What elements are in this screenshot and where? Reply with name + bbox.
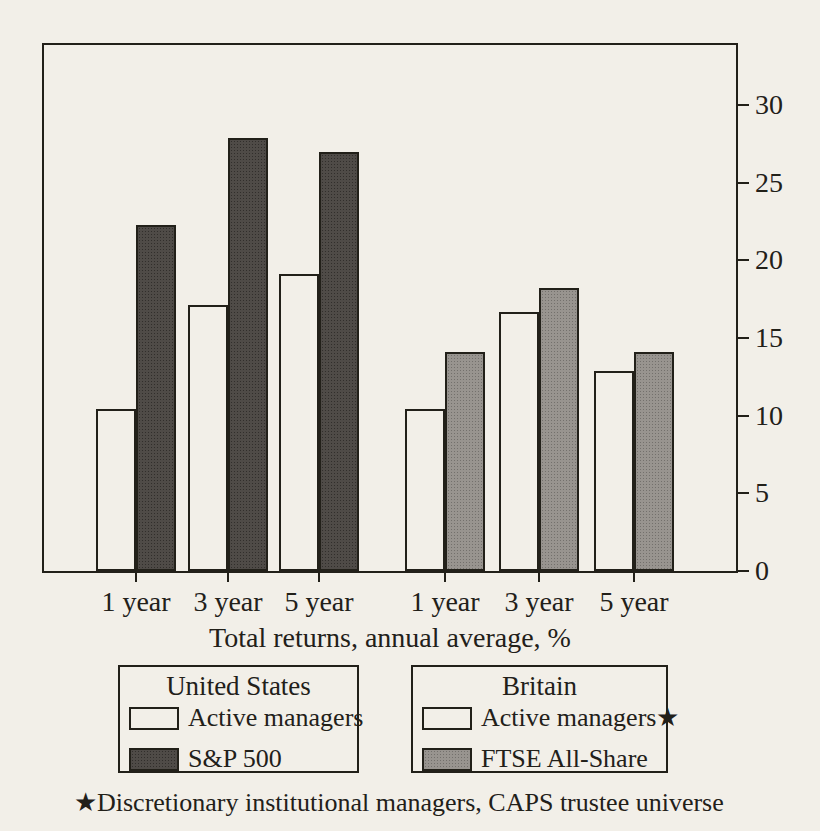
y-tick-5 — [736, 492, 749, 494]
bar-uk-active-managers-1-year — [405, 409, 445, 571]
dark-bar-swatch — [129, 748, 179, 771]
bar-uk-index-5-year — [634, 352, 674, 571]
bar-us-active-managers-5-year — [279, 274, 319, 571]
x-tick-uk-5-year — [633, 573, 635, 582]
legend-item-sp500: S&P 500 — [129, 745, 282, 773]
legend-label-uk-active-managers: Active managers★ — [481, 704, 679, 732]
scanned-chart-page: 0510152025301 year3 year5 year1 year3 ye… — [0, 0, 820, 831]
legend-title-britain: Britain — [413, 671, 666, 701]
bar-us-index-5-year — [319, 152, 359, 571]
white-bar-swatch — [129, 707, 179, 730]
x-label-us-5-year: 5 year — [284, 586, 353, 618]
y-tick-label-25: 25 — [755, 168, 783, 198]
x-label-uk-5-year: 5 year — [599, 586, 668, 618]
bar-us-index-1-year — [136, 225, 176, 571]
y-tick-label-0: 0 — [755, 556, 769, 586]
legend-label-sp500: S&P 500 — [188, 745, 282, 773]
y-tick-label-5: 5 — [755, 478, 769, 508]
y-tick-label-30: 30 — [755, 90, 783, 120]
x-label-uk-3-year: 3 year — [504, 586, 573, 618]
legend-label-us-active-managers: Active managers — [188, 704, 363, 732]
white-bar-swatch — [422, 707, 472, 730]
legend-label-ftse-all-share: FTSE All-Share — [481, 745, 648, 773]
y-tick-25 — [736, 182, 749, 184]
x-label-us-1-year: 1 year — [101, 586, 170, 618]
y-tick-10 — [736, 415, 749, 417]
legend-item-uk-active-managers: Active managers★ — [422, 704, 679, 732]
bar-uk-index-1-year — [445, 352, 485, 571]
y-tick-30 — [736, 104, 749, 106]
legend-title-united-states: United States — [120, 671, 357, 701]
y-tick-label-15: 15 — [755, 323, 783, 353]
x-label-us-3-year: 3 year — [193, 586, 262, 618]
legend-united-states: United States Active managers S&P 500 — [118, 665, 359, 773]
x-tick-us-1-year — [135, 573, 137, 582]
x-tick-us-5-year — [318, 573, 320, 582]
legend-item-us-active-managers: Active managers — [129, 704, 363, 732]
gray-bar-swatch — [422, 748, 472, 771]
bar-uk-index-3-year — [539, 288, 579, 571]
y-tick-15 — [736, 337, 749, 339]
x-tick-uk-3-year — [538, 573, 540, 582]
bar-us-active-managers-1-year — [96, 409, 136, 571]
legend-britain: Britain Active managers★ FTSE All-Share — [411, 665, 668, 773]
x-tick-us-3-year — [227, 573, 229, 582]
plot-area: 0510152025301 year3 year5 year1 year3 ye… — [42, 43, 738, 573]
y-tick-label-10: 10 — [755, 401, 783, 431]
x-tick-uk-1-year — [444, 573, 446, 582]
y-tick-label-20: 20 — [755, 245, 783, 275]
bar-uk-active-managers-3-year — [499, 312, 539, 571]
footnote: ★Discretionary institutional managers, C… — [74, 788, 724, 818]
y-tick-20 — [736, 259, 749, 261]
x-label-uk-1-year: 1 year — [410, 586, 479, 618]
x-axis-caption: Total returns, annual average, % — [42, 622, 738, 654]
y-tick-0 — [736, 570, 749, 572]
bar-uk-active-managers-5-year — [594, 371, 634, 571]
bar-us-index-3-year — [228, 138, 268, 571]
bar-us-active-managers-3-year — [188, 305, 228, 571]
legend-item-ftse-all-share: FTSE All-Share — [422, 745, 648, 773]
